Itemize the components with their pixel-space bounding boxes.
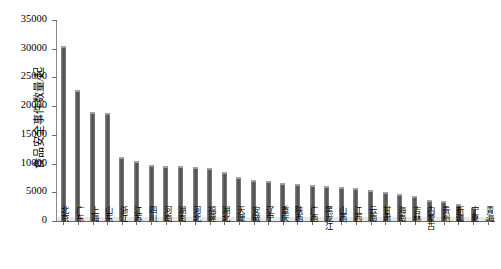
x-tick-label: 江西 bbox=[351, 206, 361, 222]
bar-chart: 食品安全事件数量/起 05000100001500020000250003000… bbox=[0, 0, 501, 269]
x-tick-label: 新疆 bbox=[453, 206, 463, 222]
y-tick: 5000 bbox=[52, 192, 57, 193]
x-tick-label: 河北 bbox=[190, 206, 200, 222]
y-tick-label: 20000 bbox=[21, 99, 47, 110]
bar-cap bbox=[368, 190, 373, 192]
bar-cap bbox=[119, 157, 124, 159]
bar-cap bbox=[266, 181, 271, 183]
y-tick: 35000 bbox=[52, 20, 57, 21]
bar-cap bbox=[75, 90, 80, 92]
bar-cap bbox=[295, 184, 300, 186]
x-tick-label: 辽宁 bbox=[263, 206, 273, 222]
bar-cap bbox=[134, 161, 139, 163]
y-tick-label: 0 bbox=[42, 214, 47, 225]
bar-cap bbox=[178, 166, 183, 168]
y-tick-label: 10000 bbox=[21, 157, 47, 168]
x-tick-label: 贵州 bbox=[439, 206, 449, 222]
bar-cap bbox=[324, 186, 329, 188]
bar-cap bbox=[310, 185, 315, 187]
x-tick-label: 广东 bbox=[73, 206, 83, 222]
plot-area: 05000100001500020000250003000035000 bbox=[56, 20, 495, 222]
y-tick-label: 5000 bbox=[26, 185, 47, 196]
x-tick-label: 上海 bbox=[88, 206, 98, 222]
y-tick: 30000 bbox=[52, 49, 57, 50]
x-tick-label: 山东 bbox=[102, 206, 112, 222]
bar-cap bbox=[90, 112, 95, 114]
x-tick-label: 青海 bbox=[483, 206, 493, 222]
bar-cap bbox=[427, 200, 432, 202]
bar-cap bbox=[236, 177, 241, 179]
x-tick-label: 吉林 bbox=[410, 206, 420, 222]
x-tick-label: 北京 bbox=[58, 206, 68, 222]
x-tick-label: 湖北 bbox=[219, 206, 229, 222]
bar-cap bbox=[251, 180, 256, 182]
bar-cap bbox=[149, 165, 154, 167]
bar-cap bbox=[441, 201, 446, 203]
x-tick-label: 山西 bbox=[336, 206, 346, 222]
x-tick-label: 江苏 bbox=[131, 206, 141, 222]
x-tick-label: 重庆 bbox=[278, 206, 288, 222]
x-tick-label: 海南 bbox=[395, 206, 405, 222]
y-tick: 15000 bbox=[52, 135, 57, 136]
bar bbox=[105, 113, 110, 221]
y-tick: 0 bbox=[52, 221, 57, 222]
x-tick-label: 内蒙古 bbox=[424, 206, 434, 230]
bar-cap bbox=[339, 187, 344, 189]
bar bbox=[90, 112, 95, 221]
bar-cap bbox=[105, 113, 110, 115]
x-tick-label: 陕西 bbox=[292, 206, 302, 222]
bar bbox=[75, 90, 80, 221]
x-tick-label: 安徽 bbox=[249, 206, 259, 222]
x-tick-label: 广西 bbox=[307, 206, 317, 222]
y-tick: 20000 bbox=[52, 106, 57, 107]
bar-cap bbox=[163, 166, 168, 168]
y-tick-label: 15000 bbox=[21, 128, 47, 139]
x-tick-label: 甘肃 bbox=[380, 206, 390, 222]
bar-cap bbox=[222, 172, 227, 174]
y-tick-label: 25000 bbox=[21, 70, 47, 81]
bar-cap bbox=[353, 188, 358, 190]
bar-cap bbox=[383, 192, 388, 194]
y-tick-label: 30000 bbox=[21, 42, 47, 53]
bar-cap bbox=[397, 194, 402, 196]
x-tick-label: 天津 bbox=[234, 206, 244, 222]
bar-cap bbox=[207, 168, 212, 170]
bar-cap bbox=[193, 167, 198, 169]
bar-cap bbox=[61, 46, 66, 48]
x-tick-label: 湖南 bbox=[175, 206, 185, 222]
bar-cap bbox=[412, 196, 417, 198]
x-tick-label: 福建 bbox=[205, 206, 215, 222]
y-tick-label: 35000 bbox=[21, 13, 47, 24]
x-tick-label: 浙江 bbox=[117, 206, 127, 222]
x-tick-label: 云南 bbox=[366, 206, 376, 222]
y-tick: 10000 bbox=[52, 164, 57, 165]
bar-cap bbox=[280, 183, 285, 185]
x-tick-label: 宁夏 bbox=[468, 206, 478, 222]
x-tick-label: 黑龙江 bbox=[322, 206, 332, 230]
x-tick-label: 河南 bbox=[161, 206, 171, 222]
y-tick: 25000 bbox=[52, 77, 57, 78]
bar bbox=[61, 46, 66, 221]
x-tick-label: 四川 bbox=[146, 206, 156, 222]
